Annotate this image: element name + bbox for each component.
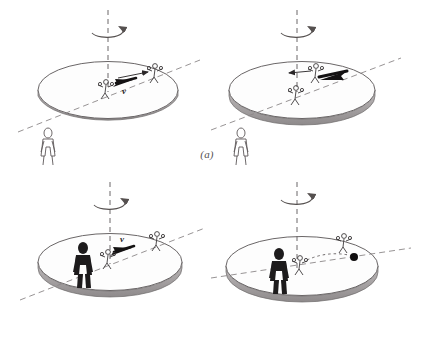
figure-root: v — [0, 0, 421, 339]
scene-a-left: v — [0, 0, 211, 170]
scene-a-right — [211, 0, 421, 170]
ground-observer-a-right — [234, 128, 248, 165]
panel-a: v — [0, 0, 421, 170]
scene-b-right — [211, 170, 421, 339]
disk-top-b-right — [226, 237, 378, 296]
panel-b: v — [0, 170, 421, 339]
scene-b-left: v — [0, 170, 211, 339]
disk-top-a-left — [38, 62, 178, 119]
ball-marker-b-right — [350, 253, 358, 261]
panel-caption-a: (a) — [190, 148, 224, 160]
disk-top-b-left — [38, 234, 182, 291]
disk-top-a-right — [229, 62, 375, 119]
ground-observer-a-left — [41, 128, 55, 165]
